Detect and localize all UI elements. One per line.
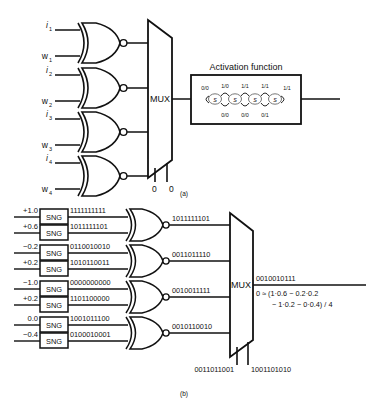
sng-label-1: SNG [46, 213, 62, 222]
xnor-gate-b1: 1011111101 [126, 209, 230, 241]
xnor-gate-b2: 0011011110 [126, 245, 230, 277]
sng-label-7: SNG [46, 321, 62, 330]
sng-bitstream-7: 1001011100 [70, 314, 110, 323]
gate-output-bitstream-1: 1011111101 [172, 214, 210, 223]
gate-input-label-w2: w [41, 96, 49, 106]
gate-input-sub-w3: 3 [49, 146, 52, 152]
sng-label-4: SNG [46, 265, 62, 274]
sng-row-8: −0.4 SNG 0100010001 [14, 330, 128, 348]
sng-label-3: SNG [46, 249, 62, 258]
sng-bitstream-8: 0100010001 [70, 330, 111, 339]
panel-b: +1.0 SNG 1111111111 +0.6 SNG 1011111101 … [14, 206, 366, 398]
gate-input-sub-w1: 1 [49, 57, 52, 63]
xnor-gate-b4: 0010110010 [126, 317, 230, 349]
sng-label-6: SNG [46, 301, 62, 310]
xnor-gate-b3: 0010011111 [126, 281, 230, 313]
activation-title: Activation function [209, 62, 282, 72]
xnor-gate-2: i 2 w 2 [41, 65, 127, 108]
sng-row-2: +0.6 SNG 1011111101 [14, 222, 128, 240]
gate-input-sub-i1: 1 [49, 26, 52, 32]
fsm-state-2: S [233, 97, 237, 103]
sng-input-value-4: +0.2 [23, 258, 38, 267]
mux-b-label: MUX [231, 280, 251, 290]
mux-a-label: MUX [150, 94, 170, 104]
sng-input-value-3: −0.2 [23, 242, 38, 251]
fsm-entry-label: 0/0 [201, 85, 209, 91]
gate-output-bitstream-2: 0011011110 [172, 250, 210, 259]
activation-function-block: Activation function S S S S [191, 62, 340, 124]
gate-input-sub-i2: 2 [49, 71, 52, 77]
fsm-bottom-label-1: 0/0 [221, 112, 229, 118]
fsm-state-3: S [253, 97, 257, 103]
gate-input-label-w4: w [41, 184, 49, 194]
equation-line-2: − 1·0.2 − 0·0.4) / 4 [272, 300, 332, 309]
caption-b: (b) [180, 390, 188, 398]
xnor-gate-3: i 3 w 3 [41, 109, 127, 152]
caption-a: (a) [180, 190, 188, 198]
fsm-state-4: S [273, 97, 277, 103]
mux-b: MUX [230, 213, 253, 357]
sng-bitstream-5: 0000000000 [70, 278, 111, 287]
panel-a: i 1 w 1 i 2 w 2 i 3 w 3 [41, 20, 340, 198]
mux-a: MUX [148, 20, 172, 178]
sng-input-value-1: +1.0 [23, 206, 38, 215]
fsm-top-label-3: 1/1 [261, 83, 269, 89]
gate-input-sub-i4: 4 [49, 159, 52, 165]
sng-bitstream-4: 1010110011 [70, 258, 110, 267]
mux-b-select-bits-1: 1001101010 [251, 365, 291, 374]
fsm-top-label-2: 1/1 [241, 83, 249, 89]
fsm-state-1: S [213, 97, 217, 103]
gate-input-sub-w2: 2 [49, 102, 52, 108]
mux-a-select-label-1: 0 [169, 184, 174, 194]
sng-bitstream-1: 1111111111 [70, 206, 106, 215]
gate-output-bitstream-3: 0010011111 [172, 286, 210, 295]
gate-input-label-w1: w [41, 51, 49, 61]
fsm-exit-label: 1/1 [283, 85, 291, 91]
sng-input-value-8: −0.4 [23, 330, 38, 339]
gate-input-sub-i3: 3 [49, 115, 52, 121]
sng-input-value-2: +0.6 [23, 222, 38, 231]
sng-input-value-5: −1.0 [23, 278, 38, 287]
figure-container: i 1 w 1 i 2 w 2 i 3 w 3 [0, 0, 368, 407]
fsm-bottom-label-2: 0/0 [241, 112, 249, 118]
xnor-gate-4: i 4 w 4 [41, 153, 127, 196]
sng-row-4: +0.2 SNG 1010110011 [14, 258, 128, 276]
gate-input-sub-w4: 4 [49, 190, 52, 196]
fsm-bottom-label-3: 0/1 [261, 112, 269, 118]
xnor-gate-1: i 1 w 1 [41, 20, 127, 63]
fsm-top-label-1: 1/0 [221, 83, 229, 89]
sng-label-8: SNG [46, 337, 62, 346]
mux-b-select-bits-0: 0011011001 [195, 365, 235, 374]
sng-label-2: SNG [46, 229, 62, 238]
sng-bitstream-2: 1011111101 [70, 222, 108, 231]
sng-row-6: +0.2 SNG 1101100000 [14, 294, 128, 312]
mux-output-bitstream: 0010010111 [256, 274, 296, 283]
sng-bitstream-3: 0110010010 [70, 242, 110, 251]
sng-input-value-7: 0.0 [27, 314, 38, 323]
sng-label-5: SNG [46, 285, 62, 294]
sng-bitstream-6: 1101100000 [70, 294, 110, 303]
gate-output-bitstream-4: 0010110010 [172, 322, 212, 331]
gate-input-label-w3: w [41, 140, 49, 150]
sng-input-value-6: +0.2 [23, 294, 38, 303]
equation-line-1: 0 ≈ (1·0.6 − 0.2·0.2 [256, 289, 318, 298]
mux-a-select-label-0: 0 [152, 184, 157, 194]
